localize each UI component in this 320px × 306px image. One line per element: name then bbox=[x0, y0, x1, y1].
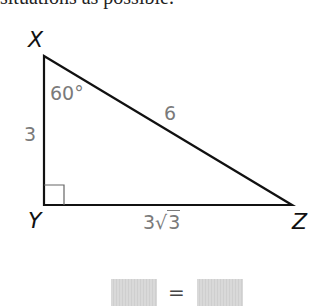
right-angle-marker bbox=[44, 185, 64, 205]
sqrt-expression: √3 bbox=[155, 213, 180, 232]
triangle-xyz bbox=[44, 56, 292, 205]
vertex-label-y: Y bbox=[28, 210, 41, 232]
side-xz-length: 6 bbox=[164, 104, 176, 123]
angle-x-measure: 60° bbox=[50, 84, 84, 103]
equals-sign: = bbox=[168, 282, 185, 302]
triangle-diagram bbox=[0, 0, 320, 306]
side-xy-length: 3 bbox=[24, 125, 36, 144]
answer-box-right[interactable] bbox=[197, 279, 243, 306]
vertex-label-z: Z bbox=[292, 211, 307, 233]
side-yz-coefficient: 3 bbox=[143, 211, 155, 233]
side-yz-length: 3√3 bbox=[143, 213, 180, 232]
side-yz-radicand: 3 bbox=[167, 210, 180, 233]
vertex-label-x: X bbox=[28, 29, 43, 51]
sqrt-icon: √ bbox=[155, 211, 167, 233]
answer-box-left[interactable] bbox=[111, 279, 157, 306]
